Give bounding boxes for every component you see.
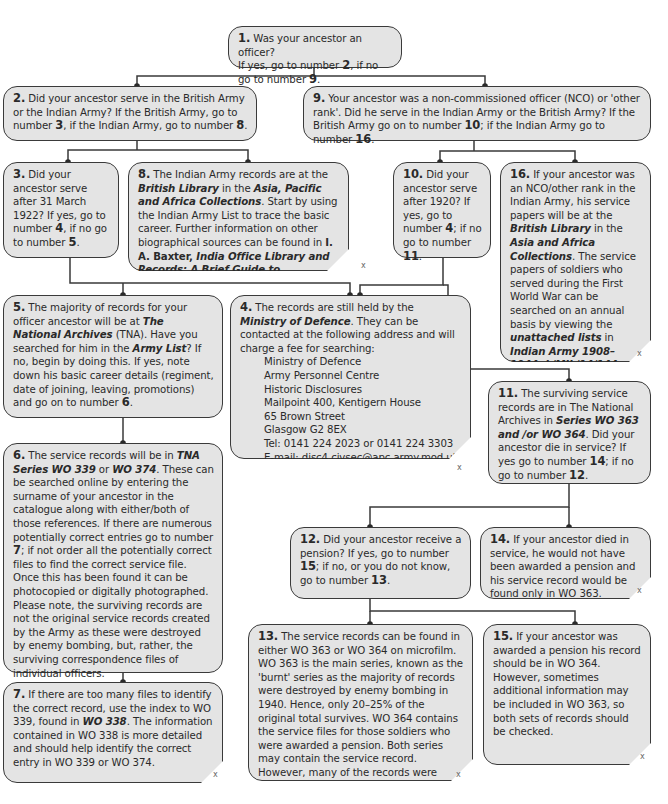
node-text: . [76, 237, 79, 248]
node-6-tna-wo339-wo374: 6. The service records will be in TNA Se… [3, 443, 223, 673]
node-text: . [371, 134, 374, 145]
node-number: 13. [258, 629, 278, 643]
node-text: . The service papers of soldiers who ser… [510, 251, 636, 330]
address-line: 65 Brown Street [264, 410, 462, 424]
address-line: Glasgow G2 8EX [264, 423, 462, 437]
node-text: The Indian Army records are at the [153, 169, 328, 180]
node-8-indian-army-officer-records: 8. The Indian Army records are at the Br… [128, 162, 349, 271]
node-ref: 9 [309, 72, 317, 86]
cut-mark: x [361, 261, 366, 270]
node-text: The records are still held by the [255, 302, 413, 313]
node-1-officer-question: 1. Was your ancestor an officer? If yes,… [228, 26, 402, 68]
node-text: Was your ancestor an officer? [238, 33, 362, 58]
node-text: . [419, 251, 422, 262]
node-ref: 10 [464, 118, 480, 132]
node-number: 15. [493, 629, 513, 643]
node-text: . [317, 74, 320, 85]
cut-mark: x [637, 349, 642, 358]
cut-mark: x [637, 586, 642, 595]
node-12-pension-question: 12. Did your ancestor receive a pension?… [290, 527, 471, 599]
address-line: Army Personnel Centre [264, 369, 462, 383]
node-emphasis: WO 338 [83, 716, 127, 727]
node-emphasis: unattached lists [510, 332, 601, 343]
node-emphasis: Ministry of Defence [240, 316, 351, 327]
node-ref: 12 [569, 468, 585, 482]
mod-address: Ministry of Defence Army Personnel Centr… [240, 355, 462, 464]
node-text: . These can be searched online by enteri… [13, 464, 214, 543]
node-text: Did your ancestor receive a pension? If … [300, 534, 461, 559]
node-text: in [601, 332, 613, 343]
node-emphasis: British Library [138, 183, 219, 194]
node-3-after-1922-question: 3. Did your ancestor serve after 31 Marc… [3, 162, 119, 258]
node-number: 8. [138, 167, 150, 181]
node-10-after-1920-question: 10. Did your ancestor serve after 1920? … [393, 162, 491, 258]
cut-mark: x [457, 463, 462, 472]
node-number: 6. [13, 448, 25, 462]
node-2-army-question: 2. Did your ancestor serve in the Britis… [3, 86, 257, 141]
node-number: 14. [490, 532, 510, 546]
node-4-ministry-of-defence: 4. The records are still held by the Min… [230, 295, 471, 459]
node-text: ; if not order all the potentially corre… [13, 545, 212, 678]
node-text: The service records can be found in eith… [258, 631, 463, 804]
node-emphasis: WO 374 [112, 464, 156, 475]
node-text: . [244, 120, 247, 131]
cut-mark: x [640, 752, 645, 761]
node-emphasis: Army List [133, 343, 187, 354]
node-number: 9. [313, 91, 325, 105]
node-number: 12. [300, 532, 320, 546]
node-text: in the [219, 183, 254, 194]
node-13-microfilm-records: 13. The service records can be found in … [248, 624, 473, 781]
node-number: 7. [13, 687, 25, 701]
node-number: 2. [13, 91, 25, 105]
node-ref: 7 [13, 543, 21, 557]
address-line: Mailpoint 400, Kentigern House [264, 396, 462, 410]
node-text: If yes, go to number [238, 60, 342, 71]
node-text: If your ancestor died in service, he wou… [490, 534, 635, 599]
node-number: 10. [403, 167, 423, 181]
phone-numbers: Tel: 0141 224 2023 or 0141 224 3303 [264, 437, 462, 451]
node-15-pension-record-wo364: 15. If your ancestor was awarded a pensi… [483, 624, 651, 765]
node-text: . [387, 575, 390, 586]
node-text: . [585, 470, 588, 481]
node-5-national-archives-officer: 5. The majority of records for your offi… [3, 295, 223, 418]
cut-mark: x [456, 770, 461, 779]
node-ref: 14 [590, 454, 606, 468]
node-number: 11. [498, 386, 518, 400]
node-11-wo363-wo364-question: 11. The surviving service records are in… [488, 381, 651, 484]
node-ref: 13 [371, 573, 387, 587]
node-text: If your ancestor was awarded a pension h… [493, 631, 641, 737]
node-emphasis: British Library [510, 223, 591, 234]
node-number: 3. [13, 167, 25, 181]
node-text: . [130, 397, 133, 408]
node-16-indian-army-nco-records: 16. If your ancestor was an NCO/other ra… [500, 162, 651, 362]
node-9-nco-question: 9. Your ancestor was a non-commissioned … [303, 86, 651, 141]
node-text: The service records will be in [28, 450, 176, 461]
node-ref: 2 [342, 58, 350, 72]
address-line: Historic Disclosures [264, 383, 462, 397]
node-number: 16. [510, 167, 530, 181]
node-ref: 11 [403, 249, 419, 263]
node-ref: 16 [355, 132, 371, 146]
node-7-wo338-index: 7. If there are too many files to identi… [3, 682, 223, 783]
node-text: or [96, 464, 113, 475]
address-line: Ministry of Defence [264, 355, 462, 369]
node-ref: 6 [122, 395, 130, 409]
node-number: 1. [238, 31, 250, 45]
node-text: in the [591, 223, 623, 234]
node-14-died-in-service: 14. If your ancestor died in service, he… [480, 527, 651, 599]
node-number: 5. [13, 300, 25, 314]
node-text: , if the Indian Army, go to number [63, 120, 236, 131]
node-number: 4. [240, 300, 252, 314]
node-ref: 15 [300, 559, 316, 573]
cut-mark: x [213, 770, 218, 779]
